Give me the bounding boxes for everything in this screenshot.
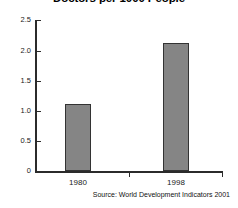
bar-1980 [65,104,91,171]
chart-title: Doctors per 1000 People [0,0,238,5]
y-axis-tick [37,171,41,172]
y-axis-tick [37,111,41,112]
y-axis-tick-label: 0 [5,167,31,175]
chart-figure: Doctors per 1000 People 2.5 2.0 1.5 1.0 … [0,0,238,208]
bar-1998 [163,43,189,171]
x-axis-tick-label: 1980 [53,178,103,187]
y-axis-tick-label: 2.5 [5,16,31,24]
y-axis-line [35,20,37,173]
y-axis-tick [37,20,41,21]
x-axis-tick [222,173,223,177]
y-axis-tick-label: 2.0 [5,47,31,55]
y-axis-tick-label: 1.0 [5,107,31,115]
x-axis-tick [129,173,130,177]
y-axis-tick-label: 0.5 [5,137,31,145]
y-axis-tick [37,81,41,82]
x-axis-tick-label: 1998 [151,178,201,187]
y-axis-tick [37,141,41,142]
y-axis-tick-label: 1.5 [5,77,31,85]
y-axis-tick [37,51,41,52]
source-note: Source: World Development Indicators 200… [93,190,230,199]
